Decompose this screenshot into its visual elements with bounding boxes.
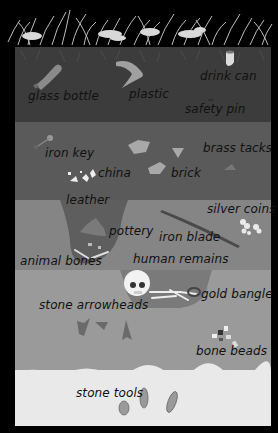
label-leather: leather <box>66 193 109 207</box>
label-iron-key: iron key <box>45 146 94 160</box>
brick-icon <box>148 162 166 174</box>
label-drink-can: drink can <box>200 69 257 83</box>
label-animal-bones: animal bones <box>20 254 102 268</box>
brick-piece-icon <box>128 140 150 154</box>
illustration <box>0 0 278 433</box>
stone-layer-edge <box>15 361 271 380</box>
label-bone-beads: bone beads <box>196 344 267 358</box>
label-human-remains: human remains <box>133 252 229 266</box>
glass-bottle-icon <box>33 65 62 91</box>
brick-piece-icon <box>172 148 184 158</box>
silver-coins-icon <box>240 219 262 235</box>
stone-arrowheads-icon <box>77 318 132 340</box>
label-pottery: pottery <box>109 224 154 238</box>
label-glass-bottle: glass bottle <box>28 89 99 103</box>
label-iron-blade: iron blade <box>159 230 220 244</box>
soil-cross-section-diagram: glass bottle plastic drink can safety pi… <box>0 0 278 433</box>
plastic-icon <box>116 61 143 88</box>
grass <box>8 10 272 45</box>
label-china: china <box>98 166 131 180</box>
label-brick: brick <box>171 166 201 180</box>
label-plastic: plastic <box>129 87 169 101</box>
label-safety-pin: safety pin <box>185 102 245 116</box>
label-stone-tools: stone tools <box>76 386 143 400</box>
label-silver-coins: silver coins <box>207 202 275 216</box>
china-icon <box>68 169 96 182</box>
brass-tacks-icon <box>224 164 236 170</box>
drink-can-icon <box>226 51 234 67</box>
label-brass-tacks: brass tacks <box>203 141 272 155</box>
label-gold-bangle: gold bangle <box>201 287 273 301</box>
label-stone-arrowheads: stone arrowheads <box>39 298 148 312</box>
